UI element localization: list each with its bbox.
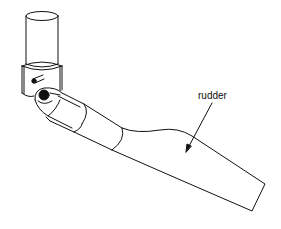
rudder-blade — [112, 128, 265, 211]
pivot-pin — [32, 75, 44, 83]
rudder-assembly-diagram — [0, 0, 281, 229]
upper-shaft-cylinder — [26, 12, 58, 68]
rudder-label: rudder — [198, 91, 227, 101]
ball-joint — [35, 88, 62, 116]
tube-sleeve — [46, 93, 123, 150]
rudder-leader-arrow — [186, 103, 212, 152]
